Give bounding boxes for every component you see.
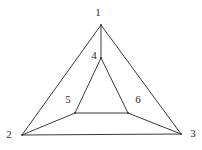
graph-diagram: 123456 <box>0 0 202 150</box>
node-6-vertex <box>127 112 129 114</box>
edge-4-6 <box>101 58 128 113</box>
edge-2-3 <box>22 134 181 135</box>
node-5-label: 5 <box>65 93 71 105</box>
node-4-label: 4 <box>91 49 97 61</box>
node-3-label: 3 <box>190 127 196 139</box>
edge-4-5 <box>75 58 101 113</box>
node-5-vertex <box>74 112 76 114</box>
node-4-vertex <box>100 57 102 59</box>
node-2-label: 2 <box>6 128 12 140</box>
node-3-vertex <box>180 133 182 135</box>
edges-group <box>22 25 181 135</box>
node-6-label: 6 <box>135 93 141 105</box>
node-1-label: 1 <box>95 6 101 18</box>
node-2-vertex <box>21 134 23 136</box>
node-1-vertex <box>100 24 102 26</box>
